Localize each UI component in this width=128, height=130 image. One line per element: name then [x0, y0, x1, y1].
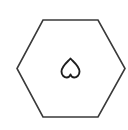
hexagon-outline [17, 20, 125, 117]
hexagon-card [0, 0, 128, 130]
